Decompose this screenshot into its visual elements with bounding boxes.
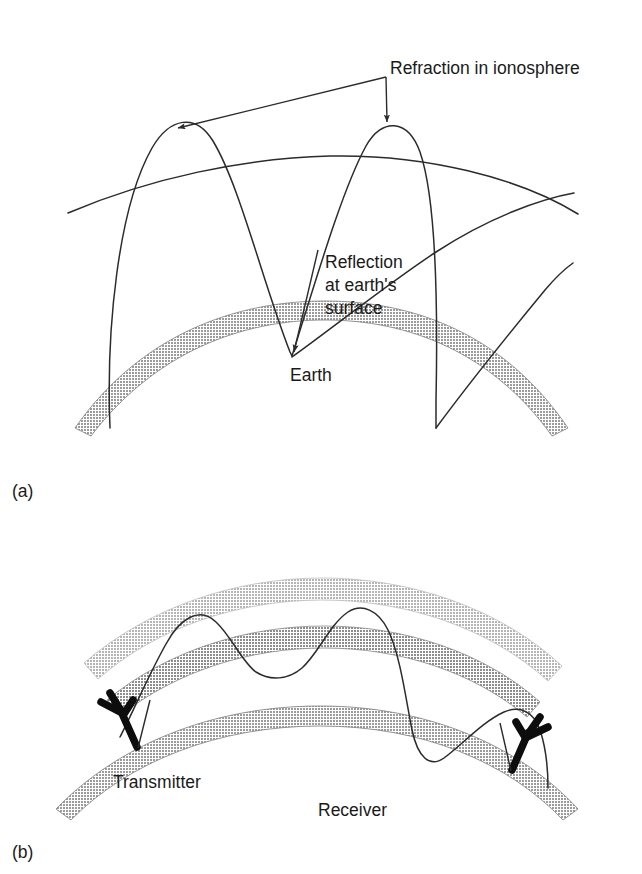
transmitter-label: Transmitter	[113, 772, 201, 792]
reflection-label-line1: Reflection	[325, 252, 403, 272]
refraction-leader-left	[178, 77, 386, 128]
propagation-diagram: Refraction in ionosphere Reflection at e…	[0, 0, 642, 874]
earth-label: Earth	[290, 365, 332, 385]
refraction-label: Refraction in ionosphere	[390, 58, 580, 78]
panel-label-b: (b)	[12, 842, 33, 862]
transmitter-antenna	[101, 693, 137, 747]
receiver-label: Receiver	[318, 800, 387, 820]
panel-label-a: (a)	[12, 481, 33, 501]
reflection-label-line3: surface	[325, 298, 382, 318]
transmitter-feed-line	[138, 700, 150, 748]
refraction-leader-right	[386, 77, 387, 122]
receiver-antenna	[512, 717, 548, 770]
figure-root: Refraction in ionosphere Reflection at e…	[0, 0, 642, 874]
reflection-label-line2: at earth's	[325, 275, 397, 295]
panel-a: Refraction in ionosphere Reflection at e…	[12, 58, 580, 501]
panel-b: Transmitter Receiver (b)	[12, 578, 578, 862]
